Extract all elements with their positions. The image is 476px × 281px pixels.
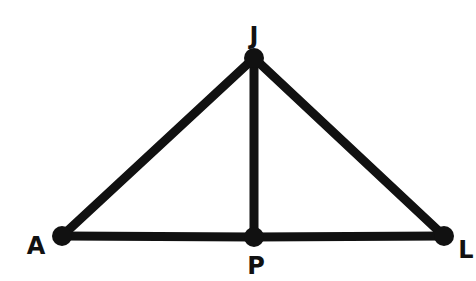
triangle-diagram: JAPL xyxy=(0,0,476,281)
point-a xyxy=(52,226,72,246)
label-p: P xyxy=(247,252,265,280)
point-j xyxy=(244,48,264,68)
segments xyxy=(62,58,444,237)
segment-pl xyxy=(254,236,444,237)
segment-ap xyxy=(62,236,254,237)
segment-jl xyxy=(254,58,444,236)
label-l: L xyxy=(458,236,473,264)
point-p xyxy=(244,227,264,247)
label-a: A xyxy=(27,232,46,260)
point-l xyxy=(434,226,454,246)
segment-aj xyxy=(62,58,254,236)
label-j: J xyxy=(248,22,259,50)
